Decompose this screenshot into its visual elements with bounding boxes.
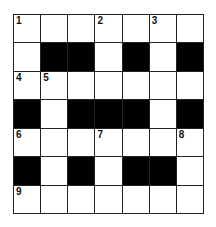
crossword-cell[interactable] (41, 157, 67, 184)
black-square (123, 100, 149, 127)
black-square (14, 100, 40, 127)
clue-number: 3 (152, 16, 158, 26)
crossword-cell[interactable] (68, 15, 94, 42)
clue-number: 9 (16, 187, 22, 197)
crossword-cell[interactable] (95, 72, 121, 99)
crossword-cell[interactable] (123, 15, 149, 42)
crossword-cell[interactable] (177, 186, 203, 213)
clue-number: 4 (16, 73, 22, 83)
crossword-cell[interactable]: 8 (177, 129, 203, 156)
black-square (177, 100, 203, 127)
crossword-cell[interactable]: 7 (95, 129, 121, 156)
crossword-cell[interactable] (177, 15, 203, 42)
crossword-cell[interactable] (68, 186, 94, 213)
crossword-cell[interactable] (41, 129, 67, 156)
crossword-cell[interactable] (150, 186, 176, 213)
crossword-cell[interactable] (150, 72, 176, 99)
crossword-cell[interactable] (150, 129, 176, 156)
black-square (95, 100, 121, 127)
crossword-cell[interactable] (177, 157, 203, 184)
black-square (41, 43, 67, 70)
crossword-cell[interactable]: 2 (95, 15, 121, 42)
crossword-cell[interactable] (150, 100, 176, 127)
clue-number: 6 (16, 130, 22, 140)
crossword-cell[interactable] (123, 186, 149, 213)
crossword-cell[interactable] (123, 72, 149, 99)
crossword-cell[interactable] (95, 186, 121, 213)
black-square (177, 43, 203, 70)
black-square (68, 100, 94, 127)
clue-number: 2 (97, 16, 103, 26)
crossword-cell[interactable]: 4 (14, 72, 40, 99)
crossword-cell[interactable] (41, 186, 67, 213)
black-square (68, 157, 94, 184)
crossword-grid: 123456789 (13, 14, 204, 214)
black-square (123, 157, 149, 184)
crossword-cell[interactable] (123, 129, 149, 156)
crossword-cell[interactable]: 9 (14, 186, 40, 213)
crossword-cell[interactable] (41, 100, 67, 127)
crossword-cell[interactable]: 6 (14, 129, 40, 156)
crossword-cell[interactable] (95, 43, 121, 70)
crossword-cell[interactable]: 1 (14, 15, 40, 42)
crossword-cell[interactable] (95, 157, 121, 184)
black-square (68, 43, 94, 70)
clue-number: 8 (179, 130, 185, 140)
crossword-cell[interactable] (14, 43, 40, 70)
clue-number: 5 (43, 73, 49, 83)
clue-number: 7 (97, 130, 103, 140)
crossword-cell[interactable]: 5 (41, 72, 67, 99)
crossword-cell[interactable] (177, 72, 203, 99)
crossword-cell[interactable] (68, 129, 94, 156)
clue-number: 1 (16, 16, 22, 26)
crossword-cell[interactable]: 3 (150, 15, 176, 42)
crossword-cell[interactable] (150, 43, 176, 70)
black-square (14, 157, 40, 184)
crossword-cell[interactable] (68, 72, 94, 99)
crossword-cell[interactable] (41, 15, 67, 42)
black-square (123, 43, 149, 70)
black-square (150, 157, 176, 184)
